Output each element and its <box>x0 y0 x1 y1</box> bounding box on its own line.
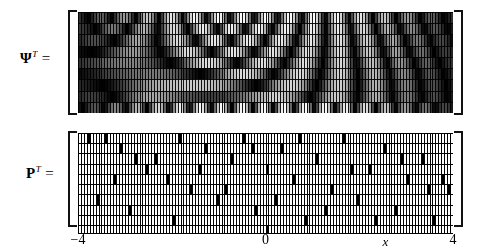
figure-root: ΨT= PT= −4 0 4 x <box>0 0 496 249</box>
psi-transpose-label: ΨT= <box>20 49 51 67</box>
p-transpose-label: PT= <box>26 164 54 182</box>
x-tick-label-max: 4 <box>450 232 457 248</box>
p-matrix-grid <box>78 133 453 225</box>
p-left-bracket <box>68 131 77 227</box>
psi-symbol: Ψ <box>20 50 32 66</box>
x-axis-labels: −4 0 4 x <box>0 232 496 249</box>
psi-superscript: T <box>32 49 38 59</box>
p-right-bracket <box>454 131 463 227</box>
p-symbol: P <box>26 165 36 181</box>
p-equals-sign: = <box>45 165 54 181</box>
psi-left-bracket <box>68 10 77 115</box>
psi-matrix-heatmap <box>78 12 453 113</box>
psi-right-bracket <box>454 10 463 115</box>
x-axis-name: x <box>383 234 389 249</box>
p-superscript: T <box>36 164 42 174</box>
x-tick-label-min: −4 <box>71 232 86 248</box>
x-tick-label-zero: 0 <box>262 232 269 248</box>
psi-equals-sign: = <box>42 50 51 66</box>
